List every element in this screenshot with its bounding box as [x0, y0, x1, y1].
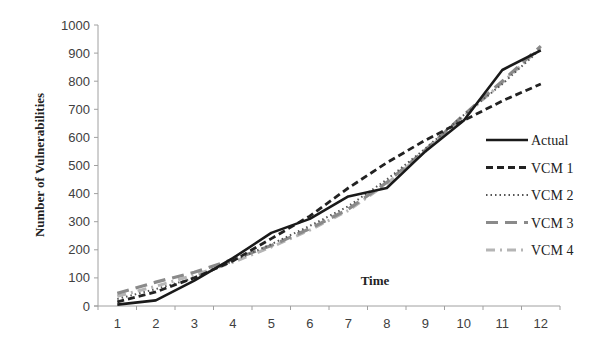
x-tick-label: 6 [306, 316, 313, 331]
x-tick-label: 11 [496, 316, 510, 331]
line-chart: 01002003004005006007008009001000 1234567… [0, 0, 604, 358]
legend-label: VCM 1 [531, 161, 573, 176]
y-tick-label: 300 [68, 214, 90, 229]
legend-item: VCM 3 [486, 216, 573, 231]
legend-label: VCM 2 [531, 188, 573, 203]
series-line-vcm-3 [117, 46, 541, 293]
y-axis: 01002003004005006007008009001000 [61, 18, 98, 314]
series-line-actual [117, 50, 541, 304]
x-tick-label: 1 [114, 316, 121, 331]
y-tick-label: 1000 [61, 18, 90, 33]
y-tick-label: 0 [83, 299, 90, 314]
x-tick-label: 2 [152, 316, 159, 331]
x-tick-label: 9 [422, 316, 429, 331]
x-tick-label: 8 [383, 316, 390, 331]
y-axis-title: Number of Vulnerabilities [32, 93, 47, 237]
legend-label: VCM 3 [531, 216, 573, 231]
x-tick-label: 5 [268, 316, 275, 331]
y-tick-label: 200 [68, 242, 90, 257]
legend: ActualVCM 1VCM 2VCM 3VCM 4 [486, 133, 573, 258]
series-lines [117, 46, 541, 305]
y-tick-label: 600 [68, 130, 90, 145]
x-tick-label: 4 [229, 316, 236, 331]
legend-label: VCM 4 [531, 243, 573, 258]
y-tick-label: 100 [68, 270, 90, 285]
x-axis: 123456789101112 [94, 306, 560, 331]
y-tick-label: 700 [68, 102, 90, 117]
x-tick-label: 7 [345, 316, 352, 331]
legend-item: VCM 2 [486, 188, 573, 203]
series-line-vcm-1 [117, 84, 541, 302]
legend-item: VCM 4 [486, 243, 573, 258]
x-axis-title: Time [361, 273, 390, 288]
x-tick-label: 10 [457, 316, 471, 331]
legend-label: Actual [531, 133, 568, 148]
legend-item: VCM 1 [486, 161, 573, 176]
y-tick-label: 800 [68, 74, 90, 89]
legend-item: Actual [486, 133, 568, 148]
series-line-vcm-4 [117, 48, 541, 297]
y-tick-label: 500 [68, 158, 90, 173]
y-tick-label: 900 [68, 46, 90, 61]
x-tick-label: 12 [534, 316, 548, 331]
x-tick-label: 3 [191, 316, 198, 331]
y-tick-label: 400 [68, 186, 90, 201]
series-line-vcm-2 [117, 49, 541, 299]
